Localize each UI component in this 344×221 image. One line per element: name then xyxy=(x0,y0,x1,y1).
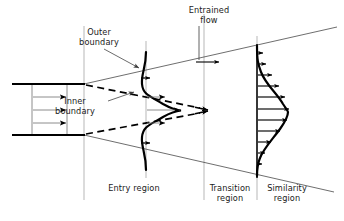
figure-background xyxy=(0,0,344,221)
jet-flow-diagram xyxy=(0,0,344,221)
jet-flow-figure: Outer boundary Entrained flow Inner boun… xyxy=(0,0,344,221)
